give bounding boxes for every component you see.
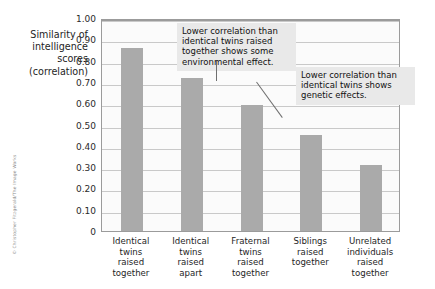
environmental-effect-callout: Lower correlation thanidentical twins ra… — [177, 23, 296, 71]
x-axis-category-label: Siblingsraisedtogether — [279, 236, 341, 268]
x-axis-category-label-line: together — [279, 257, 341, 268]
x-axis-category-label-line: twins — [220, 247, 282, 258]
callout-line: identical twins shows — [301, 80, 410, 90]
y-axis-tick-label: 1.00 — [62, 14, 96, 24]
y-axis-tick-label: 0.90 — [62, 35, 96, 45]
x-axis-category-label-line: raised — [100, 257, 162, 268]
y-axis-tick-label: 0.80 — [62, 57, 96, 67]
callout-line: Lower correlation than — [301, 70, 410, 80]
y-axis-tick-label: 0.30 — [62, 163, 96, 173]
environmental-effect-leader-line — [216, 61, 217, 81]
y-axis-tick-label: 0.20 — [62, 184, 96, 194]
x-axis-category-label: Identicaltwinsraisedtogether — [100, 236, 162, 278]
bar — [181, 78, 203, 231]
y-axis-tick-label: 0 — [62, 227, 96, 237]
x-axis-category-label-line: raised — [220, 257, 282, 268]
x-axis-category-label-line: Fraternal — [220, 236, 282, 247]
y-axis-tick-label: 0.50 — [62, 121, 96, 131]
y-axis-tick-label: 0.40 — [62, 142, 96, 152]
callout-line: identical twins raised — [182, 36, 291, 46]
genetic-effect-callout: Lower correlation thanidentical twins sh… — [296, 67, 415, 105]
bar — [241, 105, 263, 231]
x-axis-category-label-line: together — [339, 268, 401, 279]
callout-line: environmental effect. — [182, 57, 291, 67]
x-axis-category-labels: IdenticaltwinsraisedtogetherIdenticaltwi… — [101, 236, 400, 288]
x-axis-category-label-line: Identical — [100, 236, 162, 247]
x-axis-category-label-line: raised — [160, 257, 222, 268]
callout-line: genetic effects. — [301, 90, 410, 100]
x-axis-category-label-line: together — [220, 268, 282, 279]
x-axis-category-label-line: twins — [100, 247, 162, 258]
bar — [300, 135, 322, 231]
x-axis-category-label: Unrelatedindividualsraisedtogether — [339, 236, 401, 278]
x-axis-category-label: Identicaltwinsraisedapart — [160, 236, 222, 278]
x-axis-category-label-line: apart — [160, 268, 222, 279]
x-axis-category-label-line: Siblings — [279, 236, 341, 247]
x-axis-category-label-line: Unrelated — [339, 236, 401, 247]
x-axis-category-label-line: twins — [160, 247, 222, 258]
y-axis-tick-label: 0.70 — [62, 78, 96, 88]
callout-line: Lower correlation than — [182, 26, 291, 36]
x-axis-category-label-line: Identical — [160, 236, 222, 247]
photo-credit: © Christopher Fitzgerald/The Image Works — [12, 115, 17, 255]
x-axis-category-label: Fraternaltwinsraisedtogether — [220, 236, 282, 278]
x-axis-category-label-line: individuals — [339, 247, 401, 258]
x-axis-category-label-line: together — [100, 268, 162, 279]
callout-line: together shows some — [182, 46, 291, 56]
bar — [360, 165, 382, 231]
y-axis-tick-label: 0.60 — [62, 99, 96, 109]
bar — [121, 48, 143, 231]
y-axis-tick-labels: 1.000.900.800.700.600.500.400.300.200.10… — [62, 19, 96, 232]
x-axis-category-label-line: raised — [339, 257, 401, 268]
y-axis-tick-label: 0.10 — [62, 206, 96, 216]
x-axis-category-label-line: raised — [279, 247, 341, 258]
